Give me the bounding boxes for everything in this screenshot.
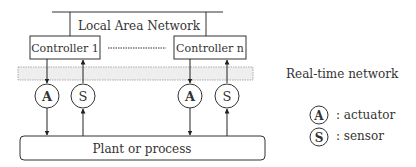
sensor-1-symbol: S [79, 89, 88, 104]
legend-actuator: A : actuator [310, 106, 395, 124]
legend-actuator-symbol: A [313, 109, 324, 123]
actuator-1: A [35, 84, 59, 108]
legend-sensor-symbol: S [315, 131, 324, 145]
local-area-network: Local Area Network [52, 12, 223, 36]
plant-or-process: Plant or process [20, 136, 265, 160]
legend-actuator-label: : actuator [336, 108, 395, 122]
real-time-network-label: Real-time network [286, 67, 399, 81]
sensor-1: S [71, 84, 95, 108]
lan-label: Local Area Network [78, 19, 201, 33]
legend-sensor-label: : sensor [336, 129, 384, 143]
real-time-network-band [18, 67, 253, 80]
controller-n-label: Controller n [176, 42, 244, 55]
controller-1-label: Controller 1 [31, 42, 99, 55]
legend-sensor: S : sensor [310, 128, 384, 146]
actuator-n: A [178, 84, 202, 108]
controller-1: Controller 1 [30, 36, 100, 59]
network-control-diagram: Local Area Network Controller 1 Controll… [0, 0, 416, 167]
sensor-n: S [215, 84, 239, 108]
sensor-n-symbol: S [223, 89, 232, 104]
actuator-1-symbol: A [41, 89, 53, 104]
controller-n: Controller n [174, 36, 246, 59]
plant-label: Plant or process [93, 142, 192, 156]
actuator-n-symbol: A [184, 89, 196, 104]
legend: A : actuator S : sensor [310, 106, 395, 146]
